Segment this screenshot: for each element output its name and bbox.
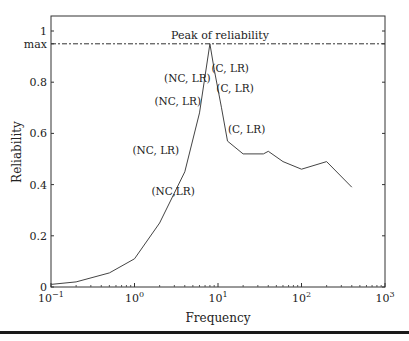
x-tick-label: 100: [125, 290, 144, 305]
x-tick-label: 10−1: [38, 290, 64, 305]
y-tick-label: 0.8: [30, 76, 48, 89]
x-axis-label: Frequency: [186, 311, 251, 325]
x-tick-label: 102: [292, 290, 311, 305]
curve-annotation: (NC, LR): [154, 95, 201, 107]
x-tick-label: 101: [208, 290, 227, 305]
y-tick-label: 1: [40, 25, 47, 38]
curve-annotation: (C, LR): [216, 82, 253, 94]
y-axis-label: Reliability: [10, 121, 24, 183]
plot-frame: [51, 16, 385, 287]
peak-label: Peak of reliability: [171, 29, 270, 42]
y-axis: 00.20.40.60.8max1: [24, 25, 385, 294]
y-tick-label: 0.6: [30, 127, 48, 140]
curve-annotation: (NC,LR): [151, 185, 194, 197]
x-tick-label: 103: [375, 290, 394, 305]
bottom-rule: [0, 331, 409, 334]
y-tick-label: max: [24, 38, 48, 51]
curve-annotation: (NC, LR): [164, 72, 211, 84]
annotations: (NC, LR)(NC, LR)(NC, LR)(NC,LR)(C, LR)(C…: [133, 62, 266, 197]
reliability-chart: 00.20.40.60.8max1 10−1100101102103 Peak …: [0, 0, 409, 341]
curve-annotation: (NC, LR): [133, 144, 180, 156]
y-tick-label: 0.4: [30, 179, 48, 192]
x-axis: 10−1100101102103: [38, 283, 394, 305]
y-tick-label: 0.2: [30, 230, 48, 243]
curve-annotation: (C, LR): [211, 62, 248, 74]
curve-annotation: (C, LR): [228, 123, 265, 135]
